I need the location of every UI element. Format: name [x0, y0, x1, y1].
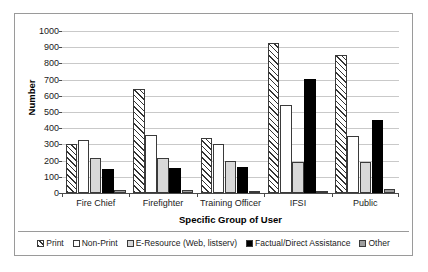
- x-category-label-fire-chief: Fire Chief: [62, 198, 129, 208]
- bar: [372, 120, 384, 193]
- bar: [145, 135, 157, 193]
- legend-item[interactable]: Print: [37, 238, 63, 248]
- legend-label: Factual/Direct Assistance: [255, 238, 350, 248]
- x-tick-mark: [197, 193, 198, 197]
- legend-label: Other: [368, 238, 389, 248]
- x-axis-title: Specific Group of User: [62, 214, 399, 225]
- x-axis-category-labels: Fire ChiefFirefighterTraining OfficerIFS…: [62, 198, 399, 212]
- legend-item[interactable]: Factual/Direct Assistance: [246, 238, 350, 248]
- y-tick-label-100: 100: [19, 173, 59, 182]
- legend-swatch-icon: [37, 240, 44, 247]
- y-tick-label-700: 700: [19, 76, 59, 85]
- y-tick-label-300: 300: [19, 140, 59, 149]
- y-tick-label-900: 900: [19, 43, 59, 52]
- bar: [280, 105, 292, 193]
- bar: [225, 161, 237, 193]
- x-category-label-public: Public: [332, 198, 399, 208]
- plot-area: [62, 31, 399, 193]
- bar: [90, 158, 102, 193]
- y-tick-label-400: 400: [19, 124, 59, 133]
- chart-frame: Number 10009008007006005004003002001000 …: [14, 13, 413, 256]
- y-tick-label-500: 500: [19, 108, 59, 117]
- legend-swatch-icon: [73, 240, 80, 247]
- x-category-label-firefighter: Firefighter: [129, 198, 196, 208]
- legend-item[interactable]: E-Resource (Web, listserv): [127, 238, 237, 248]
- y-tick-label-200: 200: [19, 157, 59, 166]
- bar-group: [332, 31, 399, 193]
- bar: [66, 144, 78, 193]
- x-category-label-ifsi: IFSI: [264, 198, 331, 208]
- y-tick-label-0: 0: [19, 189, 59, 198]
- bar: [237, 167, 249, 193]
- legend-label: Non-Print: [82, 238, 118, 248]
- legend-label: Print: [46, 238, 63, 248]
- x-category-label-training-officer: Training Officer: [197, 198, 264, 208]
- bar: [201, 138, 213, 193]
- legend-item[interactable]: Other: [359, 238, 389, 248]
- bar: [157, 158, 169, 193]
- bar: [268, 43, 280, 193]
- y-tick-label-1000: 1000: [19, 27, 59, 36]
- x-tick-mark: [264, 193, 265, 197]
- y-axis-tick-labels: 10009008007006005004003002001000: [15, 31, 59, 193]
- legend-label: E-Resource (Web, listserv): [136, 238, 237, 248]
- legend-swatch-icon: [127, 240, 134, 247]
- bar: [292, 162, 304, 193]
- y-tick-label-600: 600: [19, 92, 59, 101]
- legend-swatch-icon: [359, 240, 366, 247]
- bar: [78, 140, 90, 193]
- bar: [169, 168, 181, 193]
- bar-group: [129, 31, 196, 193]
- bar-group: [264, 31, 331, 193]
- legend-item[interactable]: Non-Print: [73, 238, 118, 248]
- bar: [213, 144, 225, 193]
- x-axis-tick-marks: [62, 193, 399, 197]
- bar: [335, 55, 347, 194]
- legend-swatch-icon: [246, 240, 253, 247]
- x-tick-mark: [332, 193, 333, 197]
- chart-legend: PrintNon-PrintE-Resource (Web, listserv)…: [18, 231, 409, 254]
- bar-group: [197, 31, 264, 193]
- bar: [102, 169, 114, 193]
- x-tick-mark: [62, 193, 63, 197]
- bar-group: [62, 31, 129, 193]
- bar: [360, 162, 372, 193]
- bar: [347, 136, 359, 193]
- x-tick-mark: [398, 193, 399, 197]
- x-tick-mark: [129, 193, 130, 197]
- y-tick-label-800: 800: [19, 59, 59, 68]
- bar: [133, 89, 145, 193]
- bar: [304, 79, 316, 193]
